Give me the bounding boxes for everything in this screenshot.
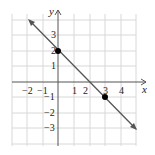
svg-text:−3: −3: [44, 122, 55, 133]
y-axis-label: y: [48, 5, 54, 17]
point-3-neg1: [102, 94, 108, 100]
x-tick-labels: −2 −1 1 2 3 4: [22, 85, 124, 96]
coordinate-graph: x y −2 −1 1 2 3 4 3 2 1 −1 −2 −3: [0, 0, 155, 155]
svg-text:1: 1: [72, 85, 77, 96]
y-tick-labels: 3 2 1 −1 −2 −3: [44, 29, 56, 133]
svg-text:2: 2: [83, 85, 88, 96]
svg-text:1: 1: [51, 60, 56, 71]
grid: [12, 14, 136, 146]
svg-text:3: 3: [51, 29, 56, 40]
axes: [12, 10, 146, 146]
svg-text:−1: −1: [44, 91, 55, 102]
point-0-2: [55, 48, 61, 54]
x-axis-label: x: [141, 83, 147, 95]
svg-text:−2: −2: [44, 107, 55, 118]
svg-text:4: 4: [119, 85, 124, 96]
svg-text:−2: −2: [22, 85, 33, 96]
